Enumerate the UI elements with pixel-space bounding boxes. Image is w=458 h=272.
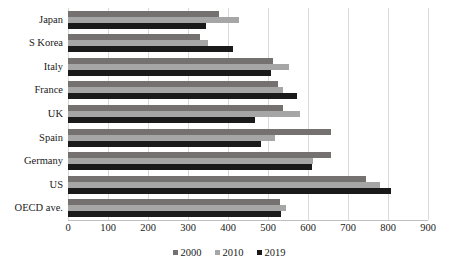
legend-item-2010: 2010 [215, 247, 244, 258]
value-tick-label: 800 [380, 222, 396, 233]
legend-item-2000: 2000 [173, 247, 202, 258]
value-tick-label: 200 [140, 222, 156, 233]
legend-label: 2000 [181, 247, 202, 258]
value-tick-label: 0 [65, 222, 70, 233]
category-label: UK [48, 108, 63, 119]
bar-group [68, 129, 428, 147]
bar-group [68, 105, 428, 123]
value-tick-label: 400 [220, 222, 236, 233]
bar-germany-2019 [68, 164, 312, 170]
bar-s-korea-2019 [68, 46, 233, 52]
legend-label: 2010 [223, 247, 244, 258]
value-axis-baseline [68, 220, 428, 221]
category-label: S Korea [29, 37, 63, 48]
bar-group [68, 152, 428, 170]
bar-group [68, 11, 428, 29]
bar-group [68, 176, 428, 194]
value-tick-label: 900 [420, 222, 436, 233]
legend-swatch-icon [257, 250, 262, 255]
category-label: France [34, 84, 63, 95]
value-tick-label: 700 [340, 222, 356, 233]
bar-uk-2019 [68, 117, 255, 123]
value-tick-label: 500 [260, 222, 276, 233]
value-axis-ticks: 0100200300400500600700800900 [0, 222, 458, 238]
bar-italy-2019 [68, 70, 271, 76]
gridline [428, 8, 429, 220]
bar-group [68, 58, 428, 76]
value-tick-label: 600 [300, 222, 316, 233]
legend-swatch-icon [215, 250, 220, 255]
category-label: Germany [24, 155, 63, 166]
category-label: Italy [44, 61, 63, 72]
bar-group [68, 81, 428, 99]
bar-chart: JapanS KoreaItalyFranceUKSpainGermanyUSO… [0, 0, 458, 272]
value-tick-label: 100 [100, 222, 116, 233]
bar-spain-2019 [68, 141, 261, 147]
legend-label: 2019 [265, 247, 286, 258]
chart-legend: 200020102019 [0, 247, 458, 258]
plot-area [68, 8, 428, 220]
category-label: US [50, 179, 63, 190]
category-axis: JapanS KoreaItalyFranceUKSpainGermanyUSO… [0, 8, 63, 220]
category-label: Spain [39, 132, 63, 143]
bar-oecd-ave--2019 [68, 211, 281, 217]
legend-swatch-icon [173, 250, 178, 255]
legend-item-2019: 2019 [257, 247, 286, 258]
category-label: Japan [39, 14, 63, 25]
bar-france-2019 [68, 93, 297, 99]
bar-group [68, 34, 428, 52]
bar-japan-2019 [68, 23, 206, 29]
bar-us-2019 [68, 188, 391, 194]
category-label: OECD ave. [15, 202, 63, 213]
value-tick-label: 300 [180, 222, 196, 233]
bar-group [68, 199, 428, 217]
